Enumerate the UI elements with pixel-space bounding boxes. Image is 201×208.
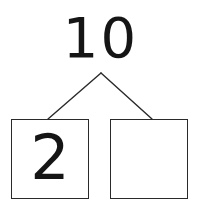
part-box-left[interactable]: 2 bbox=[11, 119, 89, 199]
whole-value: 10 bbox=[0, 8, 201, 68]
part-left-value: 2 bbox=[12, 127, 88, 189]
part-boxes-row: 2 bbox=[11, 119, 191, 200]
number-bond-diagram: 10 2 bbox=[0, 0, 201, 208]
part-box-right[interactable] bbox=[110, 119, 188, 199]
right-branch-line bbox=[101, 73, 152, 119]
left-branch-line bbox=[48, 73, 101, 119]
